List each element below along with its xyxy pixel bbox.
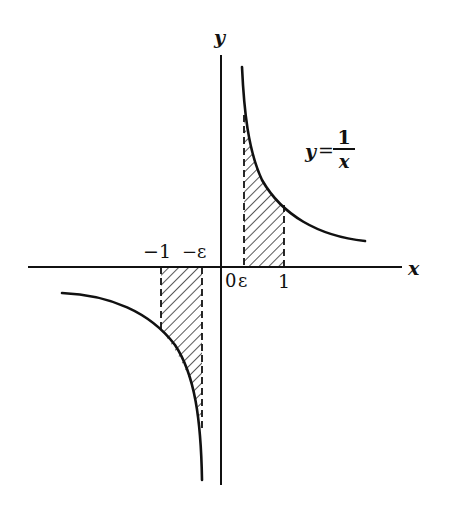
y-axis-label: y [214,28,225,47]
tick-label-one: 1 [278,272,290,291]
function-label-fraction: 1 x [333,127,355,171]
hyperbola-figure [0,0,457,512]
tick-label-neg-epsilon: −ε [182,243,206,261]
function-label-lhs: y [305,142,316,161]
tick-label-epsilon: ε [238,272,247,290]
fraction-denominator: x [339,153,350,171]
origin-label: 0 [225,272,236,290]
function-label-equals: = [318,141,334,160]
shaded-region-negative [161,267,202,437]
fraction-bar [333,148,355,150]
shaded-region-positive [244,110,284,267]
x-axis-label: x [408,259,419,278]
tick-label-neg-one: −1 [143,242,171,261]
fraction-numerator: 1 [337,127,350,147]
